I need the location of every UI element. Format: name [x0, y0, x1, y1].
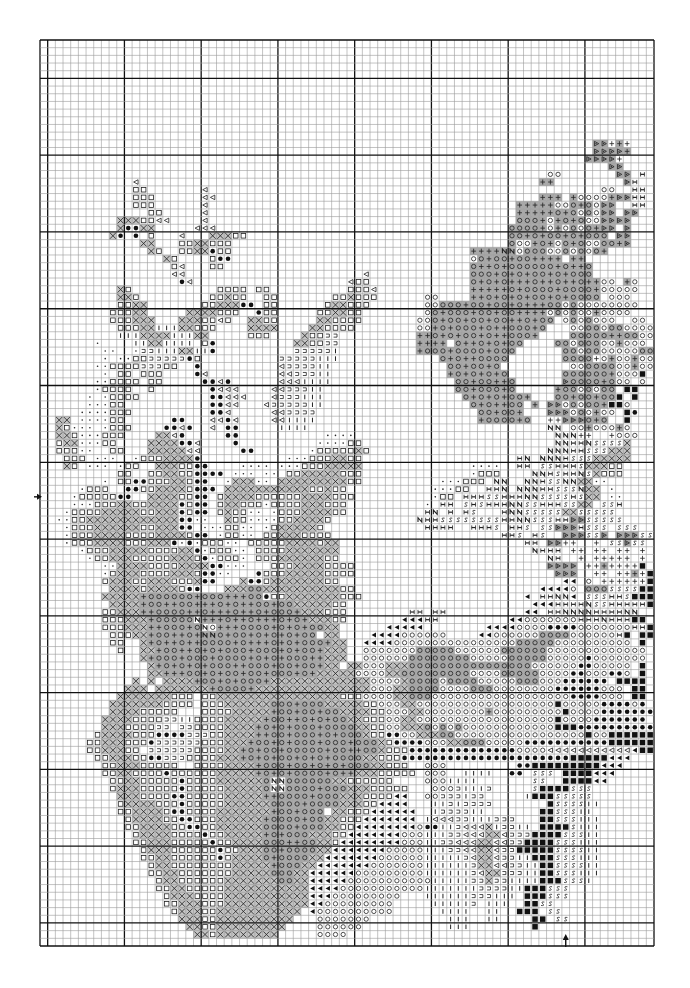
stitch-cell-filled-left-triangle: [395, 840, 399, 845]
stitch-cell-x-in-box: [309, 862, 317, 870]
stitch-cell-open-square: [241, 518, 246, 523]
stitch-cell-open-circle: [456, 687, 460, 691]
stitch-cell-open-circle: [571, 249, 575, 253]
stitch-cell-open-square: [218, 894, 223, 899]
stitch-cell-open-square: [126, 809, 131, 814]
stitch-cell-hook: [165, 726, 168, 729]
stitch-cell-x-in-box: [355, 700, 363, 708]
stitch-cell-letter-S: [618, 518, 621, 522]
stitch-cell-left-triangle-outline: [579, 748, 583, 753]
stitch-cell-x-in-box: [316, 508, 324, 516]
shade-cell: [401, 670, 409, 678]
shade-cell: [163, 593, 171, 601]
stitch-cell-letter-H: [641, 625, 645, 629]
shade-cell: [263, 846, 271, 854]
shade-cell: [301, 739, 309, 747]
stitch-cell-open-square: [203, 825, 208, 830]
stitch-cell-filled-left-triangle: [479, 633, 483, 638]
stitch-cell-filled-left-triangle: [602, 771, 606, 776]
stitch-cell-open-circle: [625, 310, 629, 314]
stitch-cell-letter-S: [564, 503, 567, 507]
shade-cell: [278, 877, 286, 885]
shade-cell: [493, 263, 501, 271]
stitch-cell-x-in-box: [163, 685, 171, 693]
stitch-cell-x-in-box: [147, 324, 155, 332]
stitch-cell-hook: [479, 795, 482, 798]
stitch-cell-filled-dot: [448, 748, 453, 753]
stitch-cell-small-dot: [112, 565, 114, 567]
stitch-cell-open-square: [164, 710, 169, 715]
shade-cell: [447, 316, 455, 324]
stitch-cell-letter-N: [525, 479, 529, 483]
stitch-cell-open-circle: [541, 725, 545, 729]
stitch-cell-open-circle: [487, 648, 491, 652]
shade-cell: [431, 647, 439, 655]
stitch-cell-filled-dot: [571, 625, 576, 630]
stitch-cell-open-square: [118, 472, 123, 477]
stitch-cell-filled-dot: [210, 387, 215, 392]
stitch-cell-open-square: [141, 187, 146, 192]
stitch-cell-open-circle: [610, 188, 614, 192]
stitch-cell-open-square: [72, 541, 77, 546]
stitch-cell-open-square: [111, 771, 116, 776]
stitch-cell-filled-dot: [625, 710, 630, 715]
shade-cell: [531, 286, 539, 294]
stitch-cell-open-circle: [502, 740, 506, 744]
shade-cell: [309, 723, 317, 731]
stitch-cell-open-square: [180, 241, 185, 246]
shade-cell: [585, 316, 593, 324]
stitch-cell-left-triangle-outline: [479, 825, 483, 830]
stitch-cell-left-triangle-outline: [464, 840, 468, 845]
stitch-cell-left-triangle-outline: [195, 441, 199, 446]
stitch-cell-open-circle: [594, 664, 598, 668]
stitch-cell-open-circle: [625, 372, 629, 376]
stitch-cell-open-square: [157, 779, 162, 784]
stitch-cell-x-in-box: [247, 885, 255, 893]
stitch-cell-x-in-box: [140, 654, 148, 662]
stitch-cell-x-in-box: [247, 800, 255, 808]
stitch-cell-letter-N: [525, 495, 529, 499]
stitch-cell-small-dot: [74, 496, 76, 498]
stitch-cell-letter-H: [487, 525, 491, 529]
stitch-cell-letter-S: [572, 848, 575, 852]
stitch-cell-open-circle: [441, 763, 445, 767]
stitch-cell-open-circle: [518, 633, 522, 637]
stitch-cell-open-circle: [617, 433, 621, 437]
stitch-cell-letter-S: [495, 518, 498, 522]
stitch-cell-open-square: [210, 848, 215, 853]
stitch-cell-filled-dot: [187, 587, 192, 592]
stitch-cell-filled-dot: [563, 740, 568, 745]
stitch-cell-x-in-box: [247, 324, 255, 332]
stitch-cell-filled-dot: [579, 694, 584, 699]
stitch-cell-filled-square: [525, 847, 531, 853]
stitch-cell-x-in-box: [201, 240, 209, 248]
stitch-cell-filled-dot: [203, 556, 208, 561]
stitch-cell-x-in-box: [255, 862, 263, 870]
stitch-cell-letter-H: [564, 602, 568, 606]
stitch-cell-x-in-box: [109, 731, 117, 739]
shade-cell: [554, 393, 562, 401]
stitch-cell-small-dot: [335, 435, 337, 437]
shade-cell: [470, 362, 478, 370]
stitch-cell-letter-S: [602, 503, 605, 507]
stitch-cell-open-square: [249, 333, 254, 338]
stitch-cell-x-in-box: [155, 516, 163, 524]
shade-cell: [516, 301, 524, 309]
stitch-cell-open-circle: [487, 717, 491, 721]
stitch-cell-open-circle: [364, 917, 368, 921]
stitch-cell-open-square: [149, 233, 154, 238]
stitch-cell-x-in-box: [224, 493, 232, 501]
stitch-cell-open-circle: [610, 648, 614, 652]
stitch-cell-open-circle: [479, 671, 483, 675]
stitch-cell-x-in-box: [155, 854, 163, 862]
stitch-cell-open-square: [372, 717, 377, 722]
stitch-cell-letter-H: [541, 595, 545, 599]
stitch-cell-x-in-box: [293, 585, 301, 593]
stitch-cell-open-square: [226, 241, 231, 246]
stitch-cell-plus: [586, 433, 591, 438]
shade-cell: [286, 862, 294, 870]
stitch-cell-letter-S: [579, 802, 582, 806]
stitch-cell-x-in-box: [94, 531, 102, 539]
stitch-cell-open-circle: [587, 241, 591, 245]
shade-cell: [309, 815, 317, 823]
